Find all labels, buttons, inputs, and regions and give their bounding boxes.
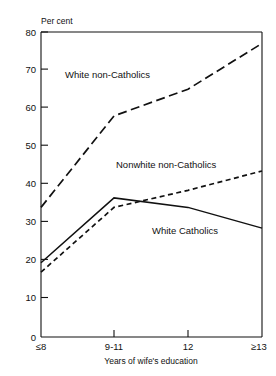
series-line-nonwhite-non-catholics: [41, 171, 262, 272]
x-tick-label-3: ≥13: [251, 341, 267, 352]
x-axis-ticks: [114, 330, 188, 337]
x-tick-label-1: 9-11: [105, 341, 123, 352]
series-line-white-non-catholics: [41, 43, 262, 207]
y-tick-label-60: 60: [25, 102, 36, 113]
y-tick-label-10: 10: [25, 292, 36, 303]
line-chart-svg: Per cent 80 70 60 50 40 30 20 10 0 ≤8 9-…: [0, 0, 276, 376]
series-label-white-catholics: White Catholics: [152, 225, 218, 236]
y-tick-label-50: 50: [25, 140, 36, 151]
series-label-white-non-catholics: White non-Catholics: [65, 69, 150, 80]
chart-figure: Per cent 80 70 60 50 40 30 20 10 0 ≤8 9-…: [0, 0, 276, 376]
x-axis-title: Years of wife's education: [104, 356, 198, 366]
y-tick-label-70: 70: [25, 64, 36, 75]
y-tick-label-40: 40: [25, 178, 36, 189]
y-tick-label-80: 80: [25, 27, 36, 38]
y-tick-label-20: 20: [25, 254, 36, 265]
x-tick-label-0: ≤8: [36, 341, 47, 352]
y-axis-unit-label: Per cent: [41, 16, 73, 26]
y-tick-label-30: 30: [25, 216, 36, 227]
series-label-nonwhite-non-catholics: Nonwhite non-Catholics: [116, 159, 217, 170]
x-tick-label-2: 12: [183, 341, 194, 352]
x-tick-labels: ≤8 9-11 12 ≥13: [36, 341, 267, 352]
y-tick-labels: 80 70 60 50 40 30 20 10 0: [25, 27, 36, 343]
